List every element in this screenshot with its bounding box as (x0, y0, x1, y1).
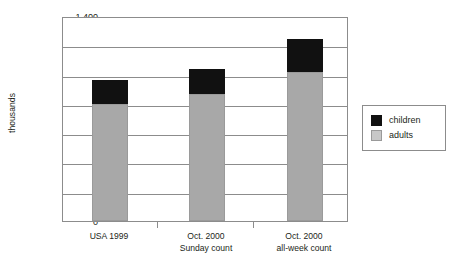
plot-area (62, 17, 348, 222)
legend-item-adults: adults (371, 128, 439, 143)
legend-label-adults: adults (389, 131, 413, 140)
bar-segment-adults[interactable] (92, 104, 128, 221)
bar-segment-adults[interactable] (287, 72, 323, 221)
legend-item-children: children (371, 113, 439, 128)
legend-swatch-children-icon (371, 115, 382, 126)
bar-segment-children[interactable] (189, 69, 225, 94)
bar-group[interactable] (287, 16, 323, 221)
x-axis-tick (157, 222, 158, 228)
legend-swatch-adults-icon (371, 130, 382, 141)
bar-group[interactable] (92, 16, 128, 221)
x-axis-tick (253, 222, 254, 228)
bar-segment-children[interactable] (287, 39, 323, 73)
x-axis-label-line2: all-week count (234, 243, 374, 255)
x-axis-label-line1: Oct. 2000 (187, 231, 224, 241)
bar-segment-children[interactable] (92, 80, 128, 103)
x-axis-label-line1: Oct. 2000 (285, 231, 322, 241)
bar-segment-adults[interactable] (189, 94, 225, 221)
legend-label-children: children (389, 116, 421, 125)
legend: children adults (362, 105, 446, 151)
x-axis-label-line1: USA 1999 (90, 231, 129, 241)
bar-group[interactable] (189, 16, 225, 221)
x-axis-label: Oct. 2000all-week count (234, 231, 374, 254)
y-axis-title: thousands (7, 73, 17, 153)
bar-chart: thousands 1,4001,2001,0008006004002000 U… (0, 0, 451, 279)
